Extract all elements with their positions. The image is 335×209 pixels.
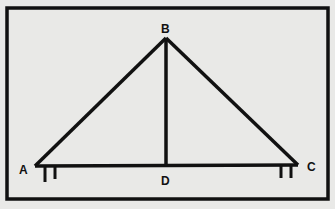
truss-diagram: A B C D bbox=[0, 0, 335, 209]
support-c-icon bbox=[281, 165, 291, 178]
point-label-c: C bbox=[307, 161, 316, 173]
member-bc bbox=[166, 38, 298, 165]
member-ab bbox=[35, 38, 166, 166]
point-label-d: D bbox=[161, 175, 170, 187]
support-a-icon bbox=[45, 166, 55, 182]
point-label-b: B bbox=[161, 23, 170, 35]
point-label-a: A bbox=[19, 164, 28, 176]
